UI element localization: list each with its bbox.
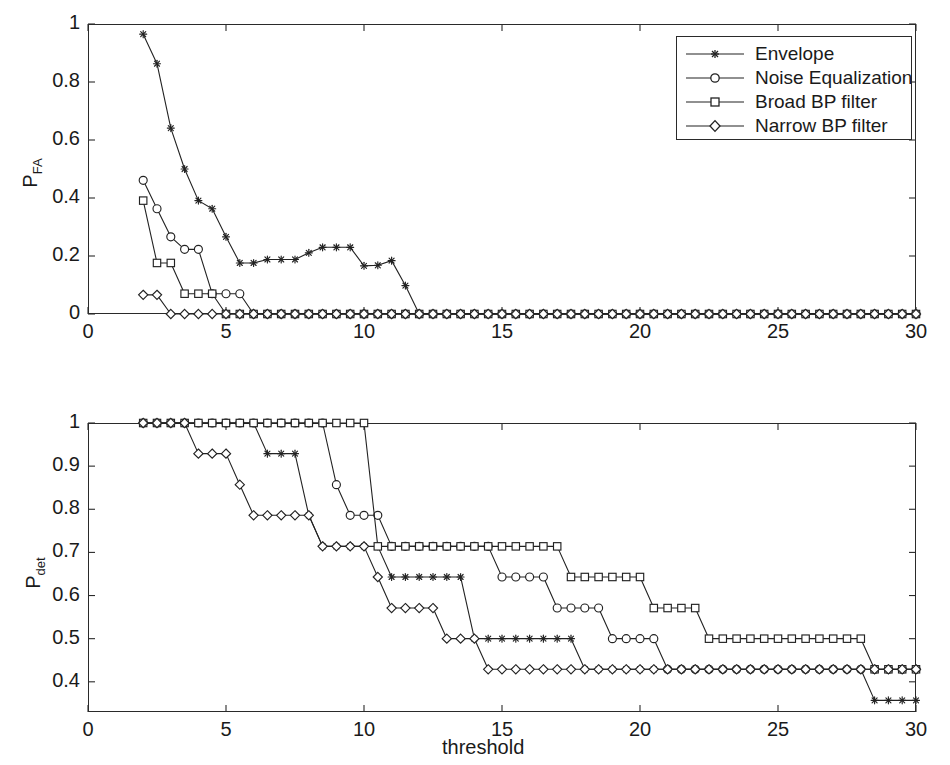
- data-point-square: [761, 635, 768, 642]
- data-point-star: [913, 697, 920, 704]
- data-point-diamond: [263, 511, 272, 520]
- legend-marker-square: [684, 92, 746, 112]
- data-point-diamond: [166, 309, 175, 318]
- data-point-star: [333, 244, 340, 251]
- data-point-star: [209, 205, 216, 212]
- data-point-diamond: [456, 634, 465, 643]
- data-point-star: [347, 244, 354, 251]
- data-point-square: [167, 259, 174, 266]
- y-tick-label: 0.9: [22, 453, 80, 476]
- data-point-circle: [608, 635, 616, 643]
- y-tick-label: 0.4: [22, 185, 80, 208]
- data-point-diamond: [635, 665, 644, 674]
- data-point-star: [195, 197, 202, 204]
- data-point-star: [540, 635, 547, 642]
- data-point-star: [319, 244, 326, 251]
- data-point-square: [623, 573, 630, 580]
- data-point-square: [526, 543, 533, 550]
- data-point-square: [747, 635, 754, 642]
- data-point-square: [830, 635, 837, 642]
- lower-panel: Pdet threshold 0510152025300.40.50.60.70…: [0, 370, 950, 765]
- data-point-star: [278, 256, 285, 263]
- legend-item-noise-equalization: Noise Equalization: [684, 66, 902, 90]
- y-tick-label: 0.5: [22, 626, 80, 649]
- data-point-square: [333, 419, 340, 426]
- data-point-square: [347, 419, 354, 426]
- data-point-square: [567, 573, 574, 580]
- data-point-diamond: [622, 665, 631, 674]
- legend-label-narrow-bp-filter: Narrow BP filter: [755, 116, 888, 136]
- data-point-star: [264, 450, 271, 457]
- data-point-star: [388, 257, 395, 264]
- data-point-circle: [222, 290, 230, 298]
- data-point-square: [664, 604, 671, 611]
- data-point-diamond: [346, 542, 355, 551]
- data-point-square: [733, 635, 740, 642]
- legend: Envelope Noise Equalization Broad BP fil…: [676, 36, 912, 140]
- data-point-circle: [360, 511, 368, 519]
- data-point-square: [140, 197, 147, 204]
- upper-panel: PFA Envelope Noise Equalizatio: [0, 0, 950, 370]
- data-point-star: [885, 697, 892, 704]
- data-point-diamond: [428, 603, 437, 612]
- data-point-square: [692, 604, 699, 611]
- series-narrow-bp-filter: [139, 290, 921, 318]
- x-tick-label: 10: [339, 718, 389, 741]
- data-point-square: [388, 543, 395, 550]
- data-point-diamond: [649, 665, 658, 674]
- data-point-diamond: [304, 511, 313, 520]
- data-point-square: [402, 543, 409, 550]
- data-point-square: [250, 419, 257, 426]
- series-noise-equalization: [139, 176, 920, 318]
- x-tick-label: 5: [201, 320, 251, 343]
- data-point-star: [871, 697, 878, 704]
- data-point-square: [650, 604, 657, 611]
- x-tick-label: 25: [753, 320, 803, 343]
- data-point-square: [305, 419, 312, 426]
- data-point-star: [568, 635, 575, 642]
- data-point-circle: [650, 635, 658, 643]
- data-point-square: [416, 543, 423, 550]
- data-point-square: [816, 635, 823, 642]
- data-point-star: [402, 573, 409, 580]
- data-point-square: [443, 543, 450, 550]
- x-tick-label: 20: [615, 320, 665, 343]
- data-point-diamond: [442, 634, 451, 643]
- data-point-star: [499, 635, 506, 642]
- data-point-square: [209, 419, 216, 426]
- data-point-circle: [526, 573, 534, 581]
- data-point-diamond: [332, 542, 341, 551]
- data-point-diamond: [415, 603, 424, 612]
- data-point-star: [430, 573, 437, 580]
- data-point-diamond: [401, 603, 410, 612]
- data-point-square: [429, 543, 436, 550]
- data-point-square: [209, 290, 216, 297]
- data-point-star: [264, 256, 271, 263]
- y-tick-label: 0: [22, 301, 80, 324]
- data-point-star: [292, 450, 299, 457]
- legend-marker-circle: [684, 68, 746, 88]
- legend-label-broad-bp-filter: Broad BP filter: [755, 92, 877, 112]
- data-point-star: [526, 635, 533, 642]
- data-point-star: [305, 249, 312, 256]
- data-point-diamond: [359, 542, 368, 551]
- data-point-square: [374, 543, 381, 550]
- data-point-diamond: [539, 665, 548, 674]
- data-point-diamond: [497, 665, 506, 674]
- data-point-diamond: [208, 449, 217, 458]
- data-point-diamond: [511, 665, 520, 674]
- data-point-square: [774, 635, 781, 642]
- data-point-square: [264, 419, 271, 426]
- data-point-diamond: [290, 511, 299, 520]
- data-point-square: [471, 543, 478, 550]
- data-point-square: [857, 635, 864, 642]
- series-envelope: [140, 420, 920, 704]
- data-point-square: [457, 543, 464, 550]
- data-point-square: [498, 543, 505, 550]
- data-point-diamond: [194, 309, 203, 318]
- data-point-diamond: [249, 511, 258, 520]
- data-point-circle: [595, 604, 603, 612]
- x-tick-label: 15: [477, 718, 527, 741]
- data-point-star: [167, 125, 174, 132]
- data-point-square: [485, 543, 492, 550]
